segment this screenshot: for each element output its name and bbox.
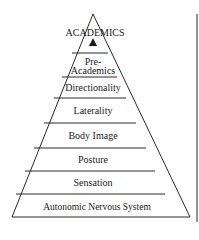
apex-label: ACADEMICS [2,28,188,38]
level-autonomic-nervous-system: Autonomic Nervous System [4,202,190,212]
apex-triangle-icon [89,38,97,46]
level-directionality: Directionality [0,83,186,93]
level-laterality: Laterality [0,106,186,116]
level-body-image: Body Image [0,131,186,141]
level-pre-academics-line2: Academics [0,66,186,75]
level-posture: Posture [0,155,186,165]
level-sensation: Sensation [0,178,186,188]
